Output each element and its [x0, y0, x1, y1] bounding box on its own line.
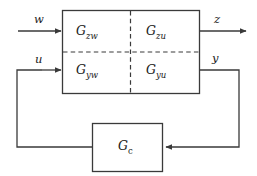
plant-label-lower-left: Gyw [76, 64, 98, 79]
plant-label-lower-right: Gyu [146, 64, 166, 79]
controller-label: Gc [118, 140, 133, 155]
signal-label-y: y [212, 53, 219, 65]
block-diagram-canvas: Gzw Gzu Gyw Gyu Gc w u z y [0, 0, 257, 176]
signal-label-w: w [34, 14, 44, 26]
y-feedback-path [166, 70, 239, 147]
plant-label-upper-right: Gzu [146, 25, 166, 40]
plant-label-upper-left: Gzw [76, 25, 98, 40]
signal-label-u: u [35, 54, 42, 66]
signal-label-z: z [214, 14, 220, 26]
controller-output-path [17, 70, 92, 147]
